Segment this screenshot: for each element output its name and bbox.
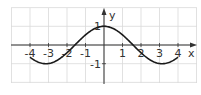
x-axis-label: x	[188, 47, 195, 60]
x-tick-label: 3	[156, 47, 163, 60]
y-axis-label: y	[109, 9, 116, 22]
x-tick-label: -3	[43, 47, 54, 60]
y-axis-arrow-icon	[102, 8, 107, 15]
cosine-graph: -4-3-2-112341-1 x y	[0, 0, 201, 95]
x-tick-label: 1	[119, 47, 126, 60]
axes	[11, 8, 197, 84]
y-tick-label: -1	[90, 58, 101, 71]
